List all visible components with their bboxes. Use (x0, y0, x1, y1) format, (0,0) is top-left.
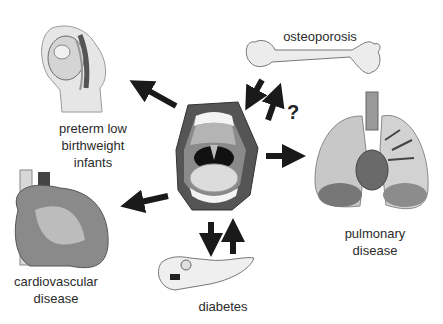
pancreas-icon (158, 257, 254, 290)
label-pulmonary: pulmonary disease (330, 225, 420, 259)
label-cardiovascular: cardiovascular disease (0, 273, 112, 307)
label-diabetes: diabetes (188, 298, 258, 315)
bone-icon (246, 40, 380, 73)
question-mark: ? (287, 104, 299, 121)
pregnancy-icon (42, 26, 106, 112)
label-preterm: preterm low birthweight infants (38, 120, 148, 171)
arrow-from-osteoporosis-up (268, 94, 277, 120)
open-mouth-icon (176, 102, 258, 210)
lungs-icon (315, 92, 428, 209)
heart-icon (15, 170, 108, 268)
arrow-to-preterm (140, 86, 176, 106)
arrow-to-cardiovascular (132, 196, 168, 204)
label-osteoporosis: osteoporosis (270, 28, 370, 45)
arrow-to-osteoporosis-down (251, 80, 262, 100)
